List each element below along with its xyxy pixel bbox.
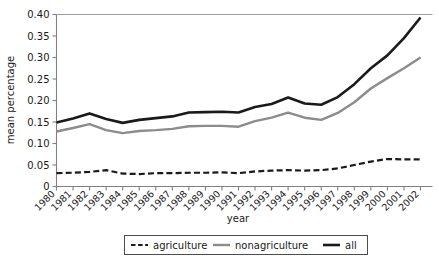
- y-axis-tick-label: 0.05: [27, 160, 49, 171]
- chart-figure: 00.050.100.150.200.250.300.350.40 198019…: [0, 0, 439, 261]
- y-axis-tick-label: 0.30: [27, 52, 49, 63]
- chart-legend: agriculturenonagricultureall: [125, 236, 368, 255]
- x-axis-title: year: [227, 213, 250, 224]
- line-chart: 00.050.100.150.200.250.300.350.40 198019…: [0, 0, 439, 261]
- legend-label-nonagriculture: nonagriculture: [235, 240, 308, 251]
- legend-label-agriculture: agriculture: [153, 240, 207, 251]
- legend-label-all: all: [345, 240, 357, 251]
- y-axis-title: mean percentage: [5, 56, 16, 144]
- y-axis-tick-label: 0.15: [27, 117, 49, 128]
- y-axis-tick-label: 0.25: [27, 74, 49, 85]
- y-axis-tick-label: 0.10: [27, 138, 49, 149]
- y-axis-tick-label: 0.35: [27, 31, 49, 42]
- y-axis-tick-label: 0.40: [27, 9, 49, 20]
- y-axis-tick-label: 0.20: [27, 95, 49, 106]
